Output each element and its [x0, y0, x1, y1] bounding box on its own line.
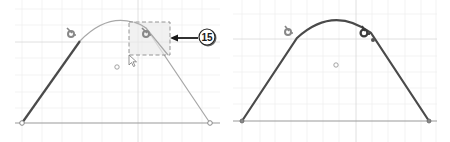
sketch-canvas-before: 15	[0, 0, 225, 142]
arc-center-point[interactable]	[334, 63, 338, 67]
tangent-constraint-icon[interactable]	[285, 26, 293, 35]
grid-major	[15, 0, 220, 142]
endpoint-left[interactable]	[240, 119, 244, 123]
callout-badge: 15	[199, 29, 217, 47]
line-segment-left[interactable]	[22, 41, 80, 123]
endpoint-right[interactable]	[427, 119, 431, 123]
panel-before: 15	[0, 0, 225, 142]
panel-after	[225, 0, 450, 142]
sketch-canvas-after	[225, 0, 450, 142]
arc-center-point[interactable]	[115, 65, 119, 69]
tangent-constraint-icon[interactable]	[67, 28, 76, 37]
endpoint-left[interactable]	[20, 121, 25, 126]
callout-arrow-icon	[170, 35, 198, 42]
mouse-cursor-icon	[129, 55, 137, 67]
endpoint-right[interactable]	[208, 121, 213, 126]
tangent-point[interactable]	[371, 38, 375, 42]
grid	[15, 0, 220, 142]
callout-number: 15	[201, 32, 213, 43]
profile-curve[interactable]	[242, 20, 429, 121]
